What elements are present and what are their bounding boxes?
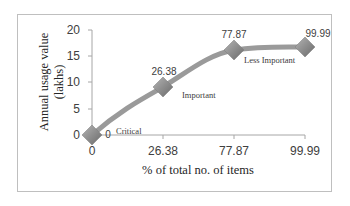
y-tick-label: 5 bbox=[73, 102, 80, 116]
y-axis-title: Annual usage value (lakhs) bbox=[37, 32, 66, 131]
x-tick-label: 99.99 bbox=[290, 144, 320, 158]
x-tick-label: 0 bbox=[89, 144, 96, 158]
x-axis-title: % of total no. of items bbox=[142, 163, 254, 177]
x-tick-label: 77.87 bbox=[219, 144, 249, 158]
data-label: 26.38 bbox=[151, 66, 176, 77]
y-axis-title-line2: (lakhs) bbox=[52, 65, 66, 100]
annotation-important: Important bbox=[182, 90, 216, 100]
data-label: 77.87 bbox=[221, 29, 246, 40]
diamond-marker-icon[interactable] bbox=[224, 40, 244, 60]
y-tick-label: 0 bbox=[73, 128, 80, 142]
y-axis-title-line1: Annual usage value bbox=[37, 32, 51, 131]
y-tick-label: 10 bbox=[67, 75, 81, 89]
data-label: 0 bbox=[105, 129, 111, 140]
data-label: 99.99 bbox=[305, 28, 330, 39]
x-tick-label: 26.38 bbox=[148, 144, 178, 158]
line-chart: 20 15 10 5 0 0 26.38 77.87 99.99 % of to… bbox=[0, 0, 350, 206]
y-tick-label: 20 bbox=[67, 23, 81, 37]
diamond-marker-icon[interactable] bbox=[295, 37, 315, 57]
annotation-critical: Critical bbox=[116, 126, 142, 136]
x-axis: 0 26.38 77.87 99.99 bbox=[89, 135, 321, 158]
y-tick-label: 15 bbox=[67, 49, 81, 63]
y-axis: 20 15 10 5 0 bbox=[67, 23, 92, 142]
annotation-less-important: Less Important bbox=[244, 55, 296, 65]
